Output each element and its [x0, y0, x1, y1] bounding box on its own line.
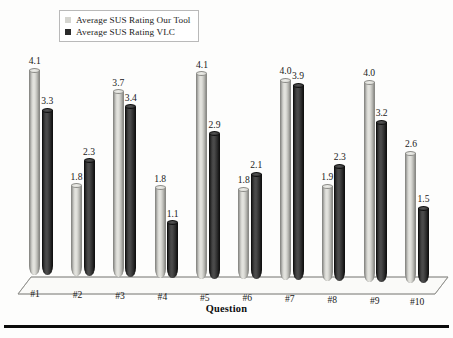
- bar-body: [209, 134, 220, 279]
- bar-value-label: 1.9: [321, 171, 333, 182]
- bar-top-cap: [418, 206, 429, 211]
- bar-value-label: 4.0: [280, 65, 292, 76]
- bar-q6-series1: 1.8: [238, 189, 249, 279]
- bar-body: [251, 174, 262, 279]
- bar-q3-series2: 3.4: [125, 107, 136, 277]
- bar-body: [405, 153, 416, 283]
- bar-value-label: 1.8: [238, 174, 250, 185]
- bar-body: [71, 186, 82, 276]
- x-tick-q10: #10: [410, 296, 424, 307]
- bar-body: [84, 161, 95, 276]
- x-tick-q2: #2: [73, 289, 83, 300]
- bar-value-label: 2.3: [334, 151, 346, 162]
- bar-q2-series2: 2.3: [84, 161, 95, 276]
- bar-body: [334, 166, 345, 281]
- bar-top-cap: [334, 164, 345, 169]
- legend-swatch-light-icon: [65, 17, 71, 23]
- bar-top-cap: [280, 78, 291, 83]
- bar-top-cap: [42, 108, 53, 113]
- bar-value-label: 4.0: [363, 67, 375, 78]
- bar-body: [196, 74, 207, 279]
- bar-value-label: 2.3: [83, 146, 95, 157]
- bar-body: [322, 186, 333, 281]
- bar-q5-series2: 2.9: [209, 134, 220, 279]
- bar-body: [167, 223, 178, 278]
- bar-body: [29, 70, 40, 275]
- bar-value-label: 3.4: [125, 92, 137, 103]
- bar-top-cap: [364, 80, 375, 85]
- chart-container: Average SUS Rating Our Tool Average SUS …: [0, 0, 453, 338]
- bar-q9-series1: 4.0: [364, 82, 375, 282]
- bar-body: [125, 107, 136, 277]
- bar-value-label: 2.9: [208, 119, 220, 130]
- bar-q10-series2: 1.5: [418, 208, 429, 283]
- bar-value-label: 4.1: [29, 55, 41, 66]
- bar-q7-series1: 4.0: [280, 80, 291, 280]
- legend-swatch-dark-icon: [65, 29, 71, 35]
- bar-top-cap: [209, 131, 220, 136]
- bar-body: [155, 188, 166, 278]
- bar-q5-series1: 4.1: [196, 74, 207, 279]
- bar-q7-series2: 3.9: [293, 85, 304, 280]
- bar-body: [364, 82, 375, 282]
- bar-top-cap: [293, 83, 304, 88]
- bar-top-cap: [405, 151, 416, 156]
- bar-top-cap: [376, 120, 387, 125]
- bar-value-label: 1.8: [154, 173, 166, 184]
- bar-q4-series1: 1.8: [155, 188, 166, 278]
- chart-plot-area: 4.13.31.82.33.73.41.81.14.12.91.82.14.03…: [0, 0, 453, 338]
- bar-top-cap: [155, 185, 166, 190]
- bar-body: [42, 110, 53, 275]
- x-tick-q8: #8: [327, 294, 337, 305]
- legend-item-our-tool: Average SUS Rating Our Tool: [65, 14, 191, 26]
- bar-body: [376, 122, 387, 282]
- bar-body: [418, 208, 429, 283]
- bar-value-label: 1.1: [167, 208, 179, 219]
- bar-q8-series2: 2.3: [334, 166, 345, 281]
- bar-value-label: 1.8: [71, 171, 83, 182]
- x-tick-q5: #5: [200, 292, 210, 303]
- legend-item-vlc: Average SUS Rating VLC: [65, 26, 191, 38]
- chart-legend: Average SUS Rating Our Tool Average SUS …: [59, 10, 199, 42]
- bar-value-label: 3.2: [376, 107, 388, 118]
- x-tick-q4: #4: [158, 291, 168, 302]
- bar-q9-series2: 3.2: [376, 122, 387, 282]
- bar-q4-series2: 1.1: [167, 223, 178, 278]
- bar-top-cap: [251, 172, 262, 177]
- x-tick-q1: #1: [30, 288, 40, 299]
- bar-value-label: 3.3: [41, 95, 53, 106]
- x-tick-q9: #9: [370, 295, 380, 306]
- bar-top-cap: [29, 68, 40, 73]
- bar-value-label: 2.6: [405, 138, 417, 149]
- bar-top-cap: [322, 184, 333, 189]
- bar-value-label: 2.1: [250, 159, 262, 170]
- bar-q1-series2: 3.3: [42, 110, 53, 275]
- bar-value-label: 3.9: [292, 70, 304, 81]
- bar-q6-series2: 2.1: [251, 174, 262, 279]
- bar-body: [280, 80, 291, 280]
- bar-q2-series1: 1.8: [71, 186, 82, 276]
- bar-body: [238, 189, 249, 279]
- x-tick-q3: #3: [115, 290, 125, 301]
- bar-q1-series1: 4.1: [29, 70, 40, 275]
- bar-q8-series1: 1.9: [322, 186, 333, 281]
- bar-value-label: 3.7: [112, 77, 124, 88]
- x-tick-q6: #6: [243, 292, 253, 303]
- legend-label-our-tool: Average SUS Rating Our Tool: [76, 14, 191, 26]
- x-tick-q7: #7: [285, 293, 295, 304]
- x-axis-title: Question: [0, 303, 453, 314]
- bar-body: [293, 85, 304, 280]
- legend-label-vlc: Average SUS Rating VLC: [76, 26, 175, 38]
- bar-q3-series1: 3.7: [113, 92, 124, 277]
- bar-value-label: 1.5: [417, 193, 429, 204]
- bar-value-label: 4.1: [196, 59, 208, 70]
- bar-body: [113, 92, 124, 277]
- bar-q10-series1: 2.6: [405, 153, 416, 283]
- bottom-divider: [4, 325, 449, 328]
